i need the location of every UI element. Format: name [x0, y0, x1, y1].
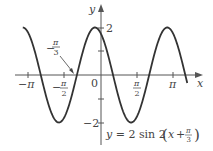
equation-label: y = 2 sin 2 ( x + π 3 )	[105, 126, 200, 144]
svg-text:+: +	[176, 128, 185, 141]
svg-text:3: 3	[54, 48, 59, 57]
annotation-neg-pi-over-3: − π 3	[46, 38, 74, 74]
y-axis-label: y	[88, 3, 96, 16]
svg-text:π: π	[133, 79, 140, 88]
svg-text:): )	[194, 126, 200, 144]
x-tick-neg-pi: −π	[18, 78, 35, 91]
x-tick-neg-pi-over-2: − π 2	[52, 79, 68, 98]
svg-text:2: 2	[62, 89, 67, 98]
svg-text:2: 2	[135, 89, 140, 98]
y-tick-neg2: −2	[83, 117, 99, 130]
x-tick-pi: π	[168, 78, 177, 91]
y-tick-2: 2	[106, 22, 113, 35]
svg-text:y = 2 sin 2: y = 2 sin 2	[105, 128, 166, 141]
svg-text:3: 3	[187, 136, 191, 144]
svg-text:π: π	[60, 79, 67, 88]
svg-text:x: x	[168, 128, 175, 141]
svg-text:π: π	[185, 127, 191, 135]
svg-text:π: π	[52, 38, 59, 47]
x-axis-label: x	[197, 77, 204, 90]
origin-label: 0	[91, 77, 98, 90]
x-tick-pi-over-2: π 2	[133, 79, 141, 98]
y-axis-arrow-icon	[98, 4, 104, 12]
annotation-arrow-icon	[60, 56, 72, 71]
sine-graph: y x 2 −2 0 −π − π 2 π 2 π − π 3 y = 2 si…	[0, 0, 213, 151]
svg-text:−: −	[52, 81, 61, 94]
svg-text:(: (	[162, 126, 168, 144]
